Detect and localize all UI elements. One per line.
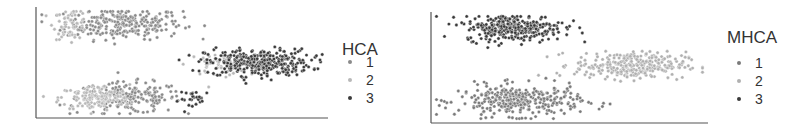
series-3 <box>175 45 323 113</box>
marker-icon <box>737 61 741 65</box>
hca-scatter-plot <box>0 0 404 130</box>
marker-icon <box>348 96 352 100</box>
series-2 <box>537 50 704 84</box>
mhca-scatter-panel: MHCA 1 2 3 <box>404 0 809 130</box>
marker-icon <box>737 97 741 101</box>
mhca-legend: MHCA 1 2 3 <box>727 28 777 48</box>
mhca-scatter-plot <box>404 0 809 130</box>
marker-icon <box>348 78 352 82</box>
marker-icon <box>348 60 352 64</box>
legend-title: MHCA <box>727 28 777 48</box>
hca-legend: HCA 1 2 3 <box>342 40 378 60</box>
hca-scatter-panel: HCA 1 2 3 <box>0 0 404 130</box>
marker-icon <box>737 79 741 83</box>
series-1 <box>435 77 612 121</box>
series-3 <box>435 15 587 50</box>
